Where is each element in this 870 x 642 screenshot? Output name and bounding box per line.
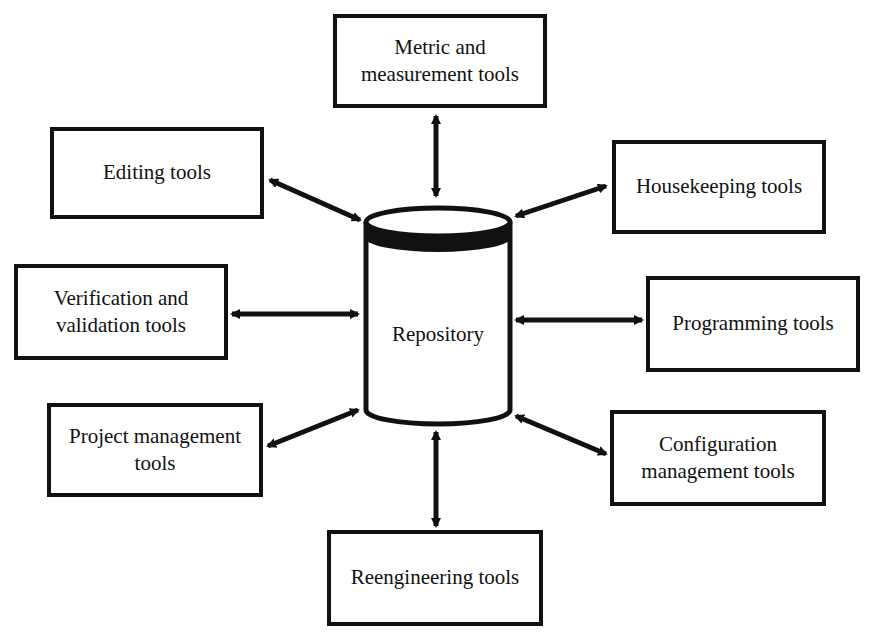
box-programming-tools: Programming tools [646, 276, 860, 372]
repository-cylinder-icon [366, 208, 510, 424]
box-metric-tools: Metric and measurement tools [333, 14, 547, 108]
box-reengineering-tools: Reengineering tools [327, 530, 543, 626]
box-project-management-tools: Project management tools [47, 403, 263, 497]
arrow-configuration [516, 416, 606, 454]
box-label: Programming tools [672, 310, 834, 337]
box-label: Housekeeping tools [636, 173, 802, 200]
box-label: Reengineering tools [351, 564, 520, 591]
box-label: Verification and validation tools [54, 285, 189, 340]
box-label: Project management tools [69, 423, 241, 478]
box-label: Metric and measurement tools [361, 34, 519, 89]
box-verification-tools: Verification and validation tools [14, 264, 228, 360]
box-label: Editing tools [103, 159, 211, 186]
box-configuration-tools: Configuration management tools [610, 410, 826, 506]
arrow-housekeeping [516, 186, 606, 216]
arrow-project [268, 410, 358, 446]
arrow-editing [270, 180, 360, 220]
repository-label: Repository [366, 322, 510, 347]
box-housekeeping-tools: Housekeeping tools [612, 140, 826, 234]
box-editing-tools: Editing tools [50, 127, 264, 219]
repository-diagram: Repository Metric and measurement tools … [0, 0, 870, 642]
box-label: Configuration management tools [641, 431, 794, 486]
